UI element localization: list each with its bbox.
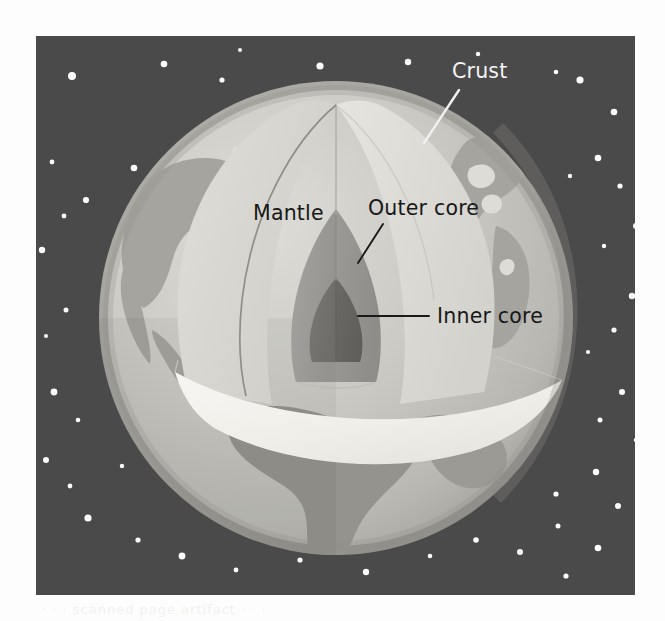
label-mantle: Mantle — [253, 201, 324, 225]
star — [593, 469, 599, 475]
space-panel — [28, 36, 639, 595]
star — [68, 72, 76, 80]
star — [611, 109, 618, 116]
star — [405, 59, 411, 65]
earth-cutaway-diagram: CrustMantleOuter coreInner core — [0, 0, 665, 621]
star — [297, 557, 302, 562]
star — [161, 61, 168, 68]
star — [76, 418, 81, 423]
star — [563, 573, 568, 578]
star — [234, 568, 239, 573]
star — [131, 165, 138, 172]
star — [611, 327, 616, 332]
star — [83, 197, 89, 203]
star — [586, 350, 590, 354]
star — [595, 155, 602, 162]
star — [595, 545, 602, 552]
star — [84, 514, 91, 521]
star — [602, 244, 606, 248]
star — [43, 457, 49, 463]
star — [68, 484, 73, 489]
star — [428, 554, 433, 559]
star — [50, 160, 55, 165]
star — [238, 48, 242, 52]
star — [51, 389, 58, 396]
star — [553, 491, 558, 496]
star — [554, 70, 559, 75]
label-outer-core: Outer core — [368, 196, 479, 220]
star — [135, 537, 140, 542]
star — [598, 418, 603, 423]
star — [64, 308, 69, 313]
star — [316, 62, 323, 69]
star — [476, 52, 480, 56]
scan-artifact-text: · · · scanned page artifact · · · — [42, 602, 622, 617]
star — [615, 503, 621, 509]
star — [568, 174, 572, 178]
star — [576, 76, 583, 83]
figure-root: CrustMantleOuter coreInner core · · · sc… — [0, 0, 665, 621]
star — [39, 247, 45, 253]
star — [62, 214, 67, 219]
star — [617, 183, 622, 188]
star — [473, 537, 479, 543]
star — [44, 334, 48, 338]
label-crust: Crust — [452, 59, 507, 83]
star — [219, 77, 224, 82]
star — [179, 553, 186, 560]
star — [619, 389, 625, 395]
star — [120, 464, 124, 468]
star — [517, 549, 523, 555]
star — [629, 293, 635, 299]
label-inner-core: Inner core — [437, 304, 543, 328]
star — [556, 524, 561, 529]
star — [363, 569, 369, 575]
